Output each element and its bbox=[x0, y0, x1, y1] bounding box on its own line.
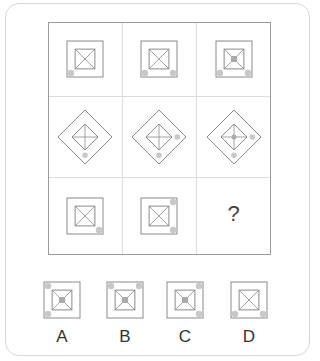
option-label: C bbox=[165, 327, 205, 347]
option-label: D bbox=[229, 327, 269, 347]
grid-cell-r1-c1 bbox=[66, 40, 104, 78]
square-figure-icon bbox=[230, 281, 268, 323]
square-figure-icon bbox=[43, 281, 81, 323]
grid-cell-r1-c3 bbox=[215, 40, 253, 78]
grid-cell-r3-c1 bbox=[66, 197, 104, 235]
grid-divider bbox=[122, 23, 123, 254]
grid-divider bbox=[49, 96, 270, 97]
grid-cell-r3-c2 bbox=[140, 197, 178, 235]
square-figure-icon bbox=[166, 281, 204, 323]
square-figure-icon bbox=[106, 281, 144, 323]
option-label: B bbox=[105, 327, 145, 347]
missing-cell: ? bbox=[196, 177, 271, 255]
grid-cell-r2-c3 bbox=[206, 109, 262, 165]
option-a[interactable]: A bbox=[42, 280, 82, 350]
grid-cell-r2-c1 bbox=[57, 109, 113, 165]
option-label: A bbox=[42, 327, 82, 347]
option-b[interactable]: B bbox=[105, 280, 145, 350]
question-mark: ? bbox=[196, 201, 271, 227]
option-d[interactable]: D bbox=[229, 280, 269, 350]
grid-cell-r2-c2 bbox=[131, 109, 187, 165]
grid-cell-r1-c2 bbox=[140, 40, 178, 78]
option-c[interactable]: C bbox=[165, 280, 205, 350]
